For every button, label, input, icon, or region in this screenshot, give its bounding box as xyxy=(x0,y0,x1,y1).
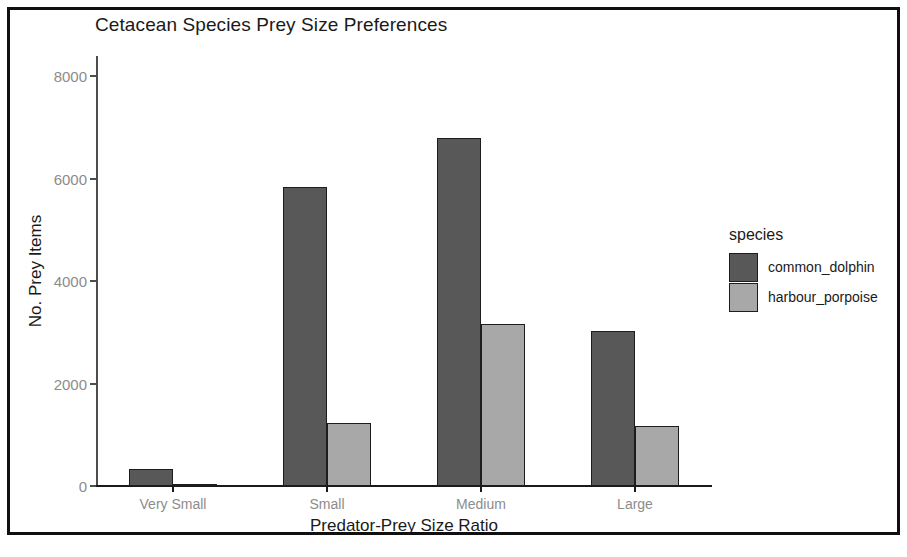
y-axis-title: No. Prey Items xyxy=(26,56,46,486)
chart-title: Cetacean Species Prey Size Preferences xyxy=(95,14,447,36)
x-axis-tick xyxy=(634,486,636,492)
x-axis-tick-label: Very Small xyxy=(140,496,207,512)
legend-title: species xyxy=(729,226,901,244)
x-axis-tick xyxy=(326,486,328,492)
y-axis-tick-label: 4000 xyxy=(54,273,87,290)
chart-figure: Cetacean Species Prey Size Preferences 0… xyxy=(0,0,907,557)
legend-item[interactable]: common_dolphin xyxy=(729,252,901,282)
x-axis-tick xyxy=(480,486,482,492)
bar xyxy=(129,469,173,486)
legend-items: common_dolphinharbour_porpoise xyxy=(729,252,901,312)
y-axis-tick-label: 0 xyxy=(79,478,87,495)
x-axis-title: Predator-Prey Size Ratio xyxy=(96,516,712,536)
x-axis-tick xyxy=(172,486,174,492)
y-axis-tick xyxy=(90,178,96,180)
y-axis-tick xyxy=(90,75,96,77)
x-axis-tick-label: Small xyxy=(309,496,344,512)
bar xyxy=(173,484,217,486)
bar xyxy=(327,423,371,486)
x-axis-tick-label: Medium xyxy=(456,496,506,512)
legend-swatch xyxy=(729,283,758,312)
y-axis-tick-label: 6000 xyxy=(54,170,87,187)
y-axis-line xyxy=(96,56,98,486)
legend-swatch xyxy=(729,253,758,282)
x-axis-tick-label: Large xyxy=(617,496,653,512)
bar xyxy=(635,426,679,486)
bar xyxy=(591,331,635,486)
plot-panel: 02000400060008000 Very SmallSmallMediumL… xyxy=(96,56,712,486)
y-axis-tick-label: 2000 xyxy=(54,375,87,392)
legend-item[interactable]: harbour_porpoise xyxy=(729,282,901,312)
legend: species common_dolphinharbour_porpoise xyxy=(729,226,901,312)
legend-label: common_dolphin xyxy=(768,259,875,275)
bar xyxy=(481,324,525,486)
legend-label: harbour_porpoise xyxy=(768,289,878,305)
bar xyxy=(283,187,327,486)
y-axis-tick-label: 8000 xyxy=(54,68,87,85)
y-axis-tick xyxy=(90,383,96,385)
y-axis-tick xyxy=(90,485,96,487)
y-axis-tick xyxy=(90,280,96,282)
bar xyxy=(437,138,481,486)
